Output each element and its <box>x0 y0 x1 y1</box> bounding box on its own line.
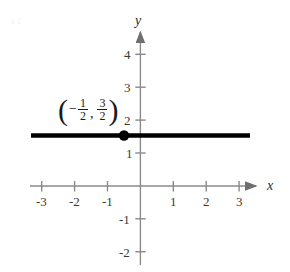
y-tick-label--2: -2 <box>119 246 130 259</box>
y-axis-label: y <box>135 14 141 28</box>
open-paren: ( <box>58 98 68 121</box>
x-tick-label--2: -2 <box>69 195 80 208</box>
x-axis <box>30 181 256 192</box>
close-paren: ) <box>108 98 118 121</box>
y-tick-label--1: -1 <box>119 213 130 226</box>
x-coordinate-numerator: 1 <box>78 97 88 109</box>
y-coordinate-numerator: 3 <box>97 97 107 109</box>
x-tick-label-1: 1 <box>170 195 177 208</box>
x-axis-label: x <box>267 179 273 193</box>
y-coordinate-fraction: 3 2 <box>97 97 107 122</box>
x-tick-label--1: -1 <box>102 195 113 208</box>
x-tick-label-3: 3 <box>236 195 243 208</box>
graph-figure: x 2 <box>0 0 290 272</box>
y-tick-label-4: 4 <box>124 48 131 61</box>
x-coordinate-denominator: 2 <box>78 109 88 122</box>
coordinate-comma: , <box>89 107 97 121</box>
y-coordinate-denominator: 2 <box>97 109 107 122</box>
x-tick-label-2: 2 <box>203 195 210 208</box>
coordinate-plane-svg <box>0 0 290 272</box>
plotted-point-marker <box>119 130 129 140</box>
y-tick-label-2: 2 <box>124 114 131 127</box>
y-axis <box>135 32 145 265</box>
x-coordinate-fraction: 1 2 <box>78 97 88 122</box>
x-tick-label--3: -3 <box>36 195 47 208</box>
minus-sign: − <box>68 102 77 116</box>
y-tick-label-3: 3 <box>124 81 131 94</box>
point-coordinate-annotation: ( − 1 2 , 3 2 ) <box>58 97 118 122</box>
y-tick-label-1: 1 <box>126 147 133 160</box>
